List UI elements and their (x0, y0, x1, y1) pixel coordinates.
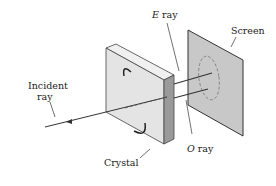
o-ray-word: ray (198, 143, 214, 154)
screen-leader (231, 37, 236, 47)
e-ray-letter: E (152, 9, 159, 20)
e-ray-leader (167, 23, 179, 71)
crystal-label: Crystal (104, 158, 139, 168)
screen-label: Screen (231, 26, 265, 36)
screen-plane (188, 30, 243, 136)
crystal-side (164, 75, 174, 144)
incident-leader (50, 102, 55, 117)
crystal-leader (140, 149, 150, 158)
o-ray-label: O ray (187, 144, 213, 154)
e-ray-label: E ray (152, 10, 178, 20)
incident-label-line1: Incident (28, 81, 68, 91)
birefringence-diagram: E ray Screen Incident ray Crystal O ray (0, 0, 276, 186)
e-ray-word: ray (162, 9, 178, 20)
incident-label-line2: ray (37, 92, 53, 102)
o-ray-letter: O (187, 143, 195, 154)
